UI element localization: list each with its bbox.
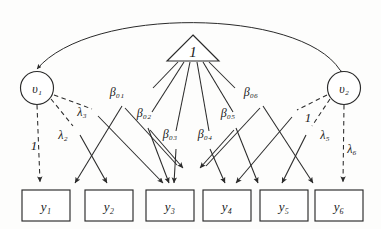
beta-label-b06: β₀₆ [243,85,258,99]
lambda-label-lam3: λ₃ [76,105,86,119]
observed-node-y1: y₁ [22,190,70,221]
lambda-edge-labels: 1 λ₂ λ₃ 1 λ₅ λ₆ [31,105,357,156]
edge-v2-to-y5 [312,99,330,126]
lambda-label-lam5: λ₅ [319,128,329,142]
latent-node-v1: υ₁ [21,72,54,105]
edge-one-to-y1 [153,62,178,88]
constant-node-label: 1 [189,44,197,60]
beta-label-b02: β₀₂ [136,106,151,120]
constant-node-triangle: 1 [167,35,219,61]
edge-one-to-y3 [176,62,190,131]
observed-node-y6: y₆ [315,190,363,221]
beta-label-b04: β₀₄ [197,127,212,141]
constant-to-observed-edges [75,62,313,183]
beta-label-b01: β₀₁ [109,85,124,99]
observed-node-y2-label: y₂ [102,199,115,214]
loading-label-one-right: 1 [305,110,312,125]
beta-label-b03: β₀₃ [162,127,177,141]
loading-label-one-left: 1 [31,138,38,153]
observed-node-y3-label: y₃ [163,199,175,214]
observed-node-y5: y₅ [260,190,308,221]
edge-v1-to-y1 [37,105,40,182]
observed-node-y4-label: y₄ [220,199,233,214]
lambda-label-lam6: λ₆ [346,142,356,156]
edge-one-to-y3-b [174,149,176,183]
latent-node-v2-label: υ₂ [339,82,349,96]
observed-node-y3: y₃ [146,190,194,221]
observed-node-y4: y₄ [203,190,251,221]
observed-node-y6-label: y₆ [332,199,344,214]
edge-v2-to-y4 [297,95,327,110]
beta-label-b05: β₀₅ [220,106,235,120]
edge-v2-to-y5-cont [282,135,306,183]
edge-v1-to-y2-cont [80,135,107,183]
edge-v1-to-y3-cont [98,116,163,183]
lambda-label-lam2: λ₂ [57,128,67,142]
edge-one-to-y2 [152,62,184,112]
edge-one-to-y4 [197,62,209,131]
observed-node-y5-label: y₅ [277,199,289,214]
observed-node-y1-label: y₁ [39,199,51,214]
latent-node-v1-label: υ₁ [32,82,42,96]
path-diagram: 1 υ₁ υ₂ y₁ y₂ y₃ y₄ y₅ [0,0,381,229]
edge-one-to-y6 [209,62,235,88]
observed-node-y2: y₂ [85,190,133,221]
edge-one-to-y5-b [236,128,258,183]
edge-one-to-y5 [203,62,233,112]
edge-v2-to-y6 [343,105,344,182]
diagram-canvas: 1 υ₁ υ₂ y₁ y₂ y₃ y₄ y₅ [0,0,381,229]
edge-v1-to-y2 [51,99,73,126]
latent-node-v2: υ₂ [328,72,361,105]
